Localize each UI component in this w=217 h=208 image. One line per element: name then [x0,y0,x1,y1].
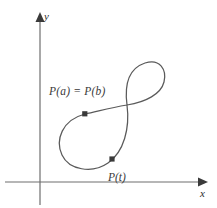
point-label-p-t: P(t) [108,172,126,184]
y-axis-label: y [44,11,49,22]
point-label-p-a-b: P(a) = P(b) [49,86,106,98]
point-marker-p-t [109,156,114,161]
x-axis-arrowhead [198,178,208,187]
point-marker-p-a-b [82,111,87,116]
x-axis-label: x [200,188,205,199]
parametric-curve-figure: y x P(a) = P(b) P(t) [0,0,217,208]
parametric-curve-path [59,62,164,169]
